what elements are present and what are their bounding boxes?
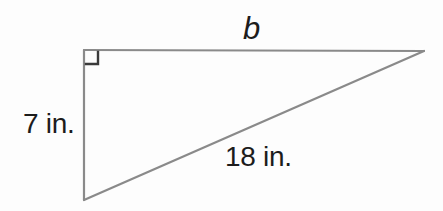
right-triangle-figure: b 7 in. 18 in.	[0, 0, 443, 211]
triangle-side-hypotenuse	[84, 51, 424, 200]
side-label-b: b	[243, 13, 260, 44]
triangle-drawing	[0, 0, 443, 211]
triangle-side-horizontal-leg	[84, 50, 424, 51]
side-label-hypotenuse: 18 in.	[225, 143, 292, 171]
right-angle-square-icon	[86, 52, 98, 64]
side-label-vertical-leg: 7 in.	[23, 110, 74, 138]
